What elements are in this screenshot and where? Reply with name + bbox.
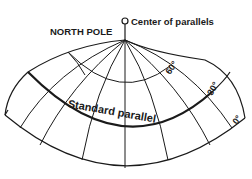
north-pole-label: NORTH POLE: [50, 26, 112, 37]
lat-30-label: 30°: [205, 80, 221, 97]
lat-0-label: 0°: [230, 113, 243, 126]
center-of-parallels-marker: [122, 18, 128, 40]
conic-projection-diagram: NORTH POLE Center of parallels Standard …: [0, 0, 252, 179]
standard-parallel-text: Standard parallel: [67, 97, 157, 124]
center-of-parallels-label: Center of parallels: [131, 16, 214, 27]
standard-parallel-label: Standard parallel: [67, 97, 157, 124]
